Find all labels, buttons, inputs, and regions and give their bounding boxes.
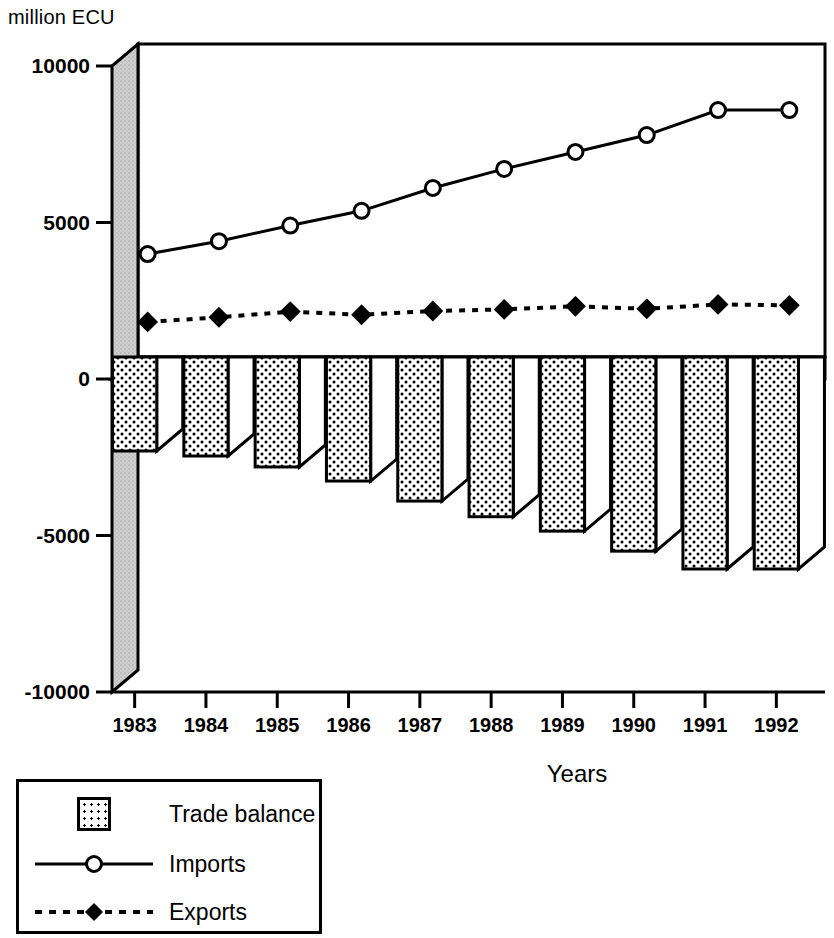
y-axis-tick-label: -5000 (0, 524, 90, 548)
bar-column (469, 357, 539, 517)
dotted-swatch-icon (77, 797, 111, 831)
legend: Trade balance Imports Exports (16, 779, 322, 934)
data-point-marker (283, 218, 298, 233)
bar-column (683, 357, 753, 569)
bar-column (754, 357, 824, 569)
bar-column (255, 357, 325, 467)
bar-column (184, 357, 254, 456)
legend-item-exports: Exports (19, 892, 325, 932)
y-axis-wall-upper (112, 44, 138, 379)
legend-label-exports: Exports (169, 899, 247, 926)
data-point-marker (140, 247, 155, 262)
legend-key-exports (19, 900, 169, 924)
x-axis-tick-label: 1992 (754, 714, 799, 737)
plot-area (0, 0, 834, 760)
bar-column (398, 357, 468, 501)
data-point-marker (211, 234, 226, 249)
x-axis-tick-label: 1984 (184, 714, 229, 737)
y-axis-tick-label: 5000 (0, 211, 90, 235)
legend-label-imports: Imports (169, 851, 246, 878)
y-axis-tick-label: -10000 (0, 680, 90, 704)
y-axis-unit-label: million ECU (8, 6, 115, 29)
x-axis-tick-label: 1989 (540, 714, 585, 737)
x-axis-tick-label: 1988 (469, 714, 514, 737)
x-axis-tick-label: 1987 (398, 714, 443, 737)
bar-column (326, 357, 396, 481)
data-point-marker (425, 180, 440, 195)
x-axis-tick-label: 1991 (683, 714, 728, 737)
legend-key-imports (19, 852, 169, 876)
legend-item-trade-balance: Trade balance (19, 794, 325, 834)
data-point-marker (354, 203, 369, 218)
data-point-marker (568, 144, 583, 159)
y-axis-tick-label: 0 (0, 367, 90, 391)
chart-figure: million ECU 1000050000-5000-10000 198319… (0, 0, 834, 938)
bar-column (113, 357, 183, 451)
x-axis-tick-label: 1983 (112, 714, 157, 737)
data-point-marker (639, 128, 654, 143)
x-axis-tick-label: 1985 (255, 714, 300, 737)
data-point-marker (497, 161, 512, 176)
legend-item-imports: Imports (19, 844, 325, 884)
data-point-marker (711, 103, 726, 118)
bar-column (612, 357, 682, 551)
solid-line-open-circle-icon (29, 852, 159, 876)
x-axis-tick-label: 1990 (612, 714, 657, 737)
data-point-marker (782, 103, 797, 118)
bar-column (540, 357, 610, 531)
legend-label-trade-balance: Trade balance (169, 801, 315, 828)
y-axis-tick-label: 10000 (0, 54, 90, 78)
legend-key-trade-balance (19, 797, 169, 831)
x-axis-tick-label: 1986 (326, 714, 371, 737)
dashed-line-filled-diamond-icon (29, 900, 159, 924)
x-axis-title-text: Years (547, 760, 608, 788)
